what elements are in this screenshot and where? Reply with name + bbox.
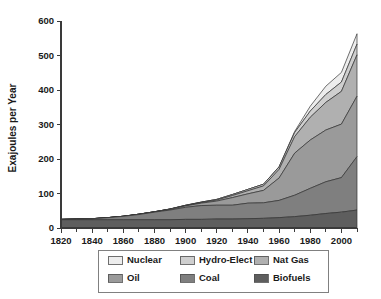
x-tick-label: 1940: [237, 235, 258, 246]
legend-swatch: [108, 274, 122, 282]
x-tick-label: 1880: [144, 235, 165, 246]
legend-label: Hydro-Elect: [199, 254, 253, 265]
legend-item-hydro-elect[interactable]: Hydro-Elect: [180, 254, 253, 265]
y-axis-tick-labels: 0100200300400500600: [38, 15, 54, 233]
chart-legend: NuclearHydro-ElectNat GasOilCoalBiofuels: [99, 251, 329, 293]
x-axis-tick-labels: 1820184018601880190019201940196019802000: [50, 235, 352, 246]
legend-swatch: [180, 274, 194, 282]
y-tick-label: 500: [38, 50, 54, 61]
x-tick-label: 1960: [269, 235, 290, 246]
stacked-area-chart: 0100200300400500600 18201840186018801900…: [0, 0, 381, 299]
y-axis-title-text: Exajoules per Year: [7, 84, 18, 173]
x-axis-ticks: [61, 228, 357, 233]
legend-item-biofuels[interactable]: Biofuels: [254, 272, 310, 283]
x-tick-label: 1920: [206, 235, 227, 246]
legend-item-nat-gas[interactable]: Nat Gas: [254, 254, 309, 265]
legend-item-coal[interactable]: Coal: [180, 272, 220, 283]
y-tick-label: 300: [38, 119, 54, 130]
y-tick-label: 0: [49, 222, 54, 233]
legend-label: Nat Gas: [273, 254, 309, 265]
chart-container: 0100200300400500600 18201840186018801900…: [0, 0, 381, 299]
x-tick-label: 1860: [113, 235, 134, 246]
y-tick-label: 400: [38, 84, 54, 95]
legend-swatch: [108, 256, 122, 264]
legend-label: Oil: [127, 272, 140, 283]
legend-label: Nuclear: [127, 254, 162, 265]
legend-item-nuclear[interactable]: Nuclear: [108, 254, 162, 265]
x-tick-label: 1900: [175, 235, 196, 246]
legend-label: Coal: [199, 272, 220, 283]
legend-swatch: [254, 274, 268, 282]
legend-swatch: [180, 256, 194, 264]
y-tick-label: 200: [38, 153, 54, 164]
x-tick-label: 1980: [300, 235, 321, 246]
x-tick-label: 1840: [82, 235, 103, 246]
legend-swatch: [254, 256, 268, 264]
legend-label: Biofuels: [273, 272, 310, 283]
plot-areas-group: [61, 34, 357, 228]
y-tick-label: 600: [38, 15, 54, 26]
y-axis-ticks: [57, 21, 61, 228]
y-tick-label: 100: [38, 188, 54, 199]
x-tick-label: 2000: [331, 235, 352, 246]
x-tick-label: 1820: [50, 235, 71, 246]
y-axis-title: Exajoules per Year: [7, 84, 18, 173]
